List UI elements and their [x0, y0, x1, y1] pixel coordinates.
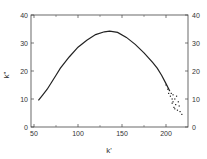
scatter-point	[174, 108, 175, 109]
y-axis-ticks: 010203040010203040	[20, 12, 200, 131]
scatter-point	[179, 111, 180, 112]
scatter-point	[177, 110, 178, 111]
scatter-point	[181, 114, 182, 115]
y-tick-label: 40	[20, 12, 28, 19]
y-tick-label: 0	[24, 124, 28, 131]
y-tick-label: 30	[20, 40, 28, 47]
scatter-point	[179, 105, 180, 106]
scatter-point	[171, 93, 172, 94]
y-tick-label: 20	[20, 68, 28, 75]
y-tick-label-right: 30	[192, 40, 200, 47]
scatter-point	[165, 84, 166, 85]
y-tick-label-right: 40	[192, 12, 200, 19]
scatter-point	[172, 101, 173, 102]
scatter-point	[178, 101, 179, 102]
y-tick-label: 10	[20, 96, 28, 103]
x-tick-label: 100	[72, 130, 84, 137]
chart: 50100150200 010203040010203040 k' k"	[0, 0, 207, 159]
x-tick-label: 50	[30, 130, 38, 137]
x-tick-label: 150	[116, 130, 128, 137]
scatter-point	[172, 98, 173, 99]
scatter-point	[175, 104, 176, 105]
y-tick-label-right: 20	[192, 68, 200, 75]
scatter-point	[167, 89, 168, 90]
scatter-point	[172, 94, 173, 95]
curve-line	[38, 31, 169, 100]
x-axis-label: k'	[106, 146, 112, 155]
scatter-point	[173, 107, 174, 108]
y-tick-label-right: 0	[192, 124, 196, 131]
scatter-point	[176, 96, 177, 97]
scatter-point	[168, 93, 169, 94]
scatter-point	[170, 96, 171, 97]
y-tick-label-right: 10	[192, 96, 200, 103]
scatter-point	[174, 98, 175, 99]
data-series	[38, 31, 182, 115]
scatter-point	[172, 103, 173, 104]
x-tick-label: 200	[160, 130, 172, 137]
scatter-point	[169, 90, 170, 91]
y-axis-label: k"	[2, 71, 11, 78]
